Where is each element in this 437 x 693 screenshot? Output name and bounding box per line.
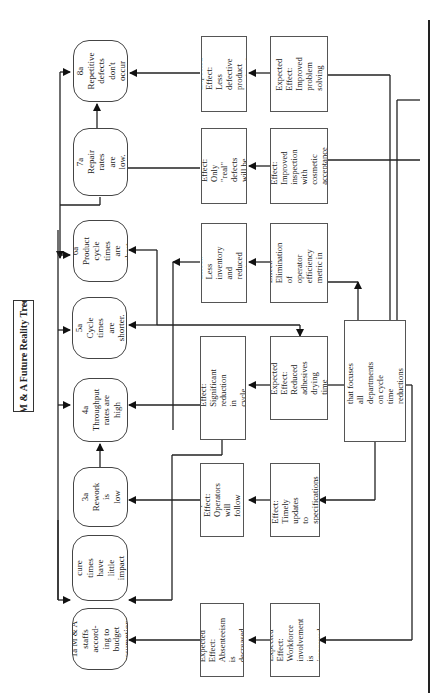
outcome-4a: 4a Throughput rates are high [73, 378, 128, 442]
effect-text: Expected Effect: Operators will follow s… [200, 483, 244, 517]
effect-text: Expected Effect: Elimination of operator… [270, 243, 328, 284]
outcome-6a: 6a Product cycle times are short. [73, 220, 128, 282]
effect-workforce-involvement: Expected Effect: Workforce involvement i… [270, 603, 320, 677]
diagram-title: M & A Future Reality Tree [13, 300, 34, 412]
outcome-text: 4a Throughput rates are high [80, 389, 122, 432]
outcome-3a: 3a Rework is low [73, 467, 128, 527]
effect-text: Expected Effect: Less inventory and redu… [201, 247, 247, 280]
effect-text: Expected Effect: Timely updates to speci… [270, 476, 320, 523]
effect-operators-follow-spec: Expected Effect: Operators will follow s… [200, 463, 244, 537]
effect-text: Expected Effect: Significant reduction i… [200, 369, 246, 407]
outcome-text: 8a Repetitive defects don't occur [74, 53, 127, 90]
effect-text: Expected Effect: Only "real" defects wil… [201, 150, 247, 182]
outcome-2a: 2a Adhesive cure times have little impac… [72, 535, 128, 601]
effect-less-defective: Expected Effect: Less defective product … [201, 36, 247, 112]
effect-timely-updates: Expected Effect: Timely updates to speci… [270, 463, 320, 537]
outcome-text: 6a Product cycle times are short. [73, 237, 128, 265]
effect-text: Expected Effect: Improved inspection wit… [270, 147, 328, 185]
outcome-text: 1a M & A staffs accord- ing to budget as… [72, 617, 128, 662]
outcome-text: 5a Cycle times are shorter. [73, 315, 126, 342]
effect-reduced-adhesives: Expected Effect: Reduced adhesives dryin… [270, 336, 328, 420]
effect-less-inventory: Expected Effect: Less inventory and redu… [201, 223, 247, 303]
effect-problem-solving: Expected Effect: Improved problem solvin… [270, 36, 328, 112]
effect-text: Expected Effect: Absenteeism is decrease… [200, 618, 244, 662]
outcome-7a: 7a Repair rates are low. [73, 128, 128, 196]
effect-real-defects: Expected Effect: Only "real" defects wil… [201, 128, 247, 204]
outcome-5a: 5a Cycle times are shorter. [72, 297, 127, 359]
diagram-title-text: M & A Future Reality Tree [19, 300, 29, 412]
outcome-text: 3a Rework is low [80, 483, 122, 512]
root-improvement-plan: We have an improvement plan in place tha… [344, 320, 406, 442]
outcome-text: 7a Repair rates are low. [74, 149, 127, 176]
effect-absenteeism: Expected Effect: Absenteeism is decrease… [200, 603, 244, 677]
effect-significant-reduction: Expected Effect: Significant reduction i… [200, 336, 246, 440]
effect-text: Expected Effect: Reduced adhesives dryin… [270, 361, 328, 394]
outcome-8a: 8a Repetitive defects don't occur [73, 40, 128, 102]
root-text: We have an improvement plan in place tha… [344, 358, 406, 404]
outcome-1a: 1a M & A staffs accord- ing to budget as… [72, 608, 128, 670]
effect-improved-inspection: Expected Effect: Improved inspection wit… [270, 128, 328, 204]
effect-text: Expected Effect: Less defective product … [201, 58, 247, 90]
effect-text: Expected Effect: Improved problem solvin… [274, 57, 324, 90]
effect-text: Expected Effect: Workforce involvement i… [270, 619, 320, 662]
effect-elimination-metric: Expected Effect: Elimination of operator… [270, 223, 328, 303]
outcome-text: 2a Adhesive cure times have little impac… [72, 551, 128, 585]
